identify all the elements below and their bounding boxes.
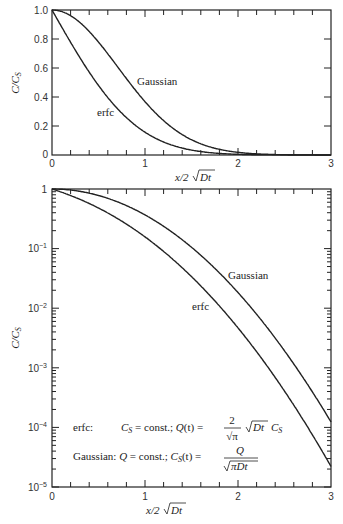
erfc-equation: erfc: CS = const.; Q(t) = 2 √π Dt CS	[73, 414, 282, 442]
top-erfc-curve	[52, 10, 331, 155]
bottom-y-tick-labels: 1 10−1 10−2 10−3 10−4 10−5	[28, 184, 48, 493]
svg-text:Dt: Dt	[170, 504, 183, 516]
top-x-axis-label: x/2 Dt	[174, 170, 215, 183]
bottom-axis-ticks	[52, 189, 331, 487]
top-xtick-2: 2	[235, 158, 241, 169]
svg-text:erfc:: erfc:	[73, 421, 93, 433]
svg-text:CS = const.; Q(t) =: CS = const.; Q(t) =	[121, 421, 203, 435]
top-plot-frame	[52, 10, 331, 155]
bottom-ytick-1e-5: 10−5	[28, 481, 47, 493]
top-xtick-1: 1	[142, 158, 148, 169]
svg-text:Gaussian: Q = const.; CS(t) =: Gaussian: Q = const.; CS(t) =	[73, 450, 201, 464]
top-gaussian-curve	[52, 10, 331, 155]
bottom-ytick-1e-1: 10−1	[28, 242, 47, 254]
bottom-xtick-0: 0	[49, 491, 55, 502]
top-ytick-1.0: 1.0	[34, 5, 48, 16]
svg-text:πDt: πDt	[231, 460, 248, 472]
bottom-erfc-label: erfc	[192, 300, 209, 312]
bottom-ytick-1e-3: 10−3	[28, 362, 47, 374]
bottom-x-axis-label: x/2 Dt	[145, 503, 186, 516]
bottom-ytick-1e-2: 10−2	[28, 302, 47, 314]
svg-text:2: 2	[229, 414, 235, 426]
top-xtick-0: 0	[49, 158, 55, 169]
svg-text:CS: CS	[271, 421, 282, 435]
top-ytick-0.8: 0.8	[34, 34, 48, 45]
bottom-xtick-1: 1	[142, 491, 148, 502]
bottom-x-tick-labels: 0 1 2 3	[49, 491, 334, 502]
bottom-y-axis-label: C/CS	[9, 327, 23, 349]
top-erfc-label: erfc	[97, 106, 114, 118]
top-gaussian-label: Gaussian	[137, 75, 178, 87]
svg-text:Dt: Dt	[199, 171, 212, 183]
top-x-tick-labels: 0 1 2 3	[49, 158, 334, 169]
bottom-xtick-3: 3	[328, 491, 334, 502]
svg-text:C/CS: C/CS	[9, 72, 23, 94]
svg-text:C/CS: C/CS	[9, 327, 23, 349]
bottom-ytick-1e-4: 10−4	[28, 421, 47, 433]
top-ytick-0.4: 0.4	[34, 92, 48, 103]
top-axis-ticks	[52, 10, 331, 155]
top-y-tick-labels: 0 0.2 0.4 0.6 0.8 1.0	[34, 5, 48, 160]
top-xtick-3: 3	[328, 158, 334, 169]
top-ytick-0.2: 0.2	[34, 121, 48, 132]
bottom-plot: 1 10−1 10−2 10−3 10−4 10−5 0 1 2 3 Gauss…	[9, 184, 334, 516]
svg-text:x/2: x/2	[145, 504, 160, 516]
bottom-plot-frame	[52, 189, 331, 487]
bottom-xtick-2: 2	[235, 491, 241, 502]
svg-text:Dt: Dt	[252, 421, 265, 433]
svg-text:√π: √π	[226, 430, 238, 442]
gaussian-equation: Gaussian: Q = const.; CS(t) = Q πDt	[73, 444, 258, 472]
svg-text:Q: Q	[236, 444, 244, 456]
figure: 0 0.2 0.4 0.6 0.8 1.0 0 1 2 3 Gaussian e…	[0, 0, 343, 524]
top-plot: 0 0.2 0.4 0.6 0.8 1.0 0 1 2 3 Gaussian e…	[9, 5, 334, 183]
bottom-ytick-1: 1	[41, 184, 47, 195]
svg-text:x/2: x/2	[174, 171, 189, 183]
top-ytick-0: 0	[42, 149, 48, 160]
top-y-axis-label: C/CS	[9, 72, 23, 94]
bottom-gaussian-label: Gaussian	[228, 269, 269, 281]
top-ytick-0.6: 0.6	[34, 63, 48, 74]
